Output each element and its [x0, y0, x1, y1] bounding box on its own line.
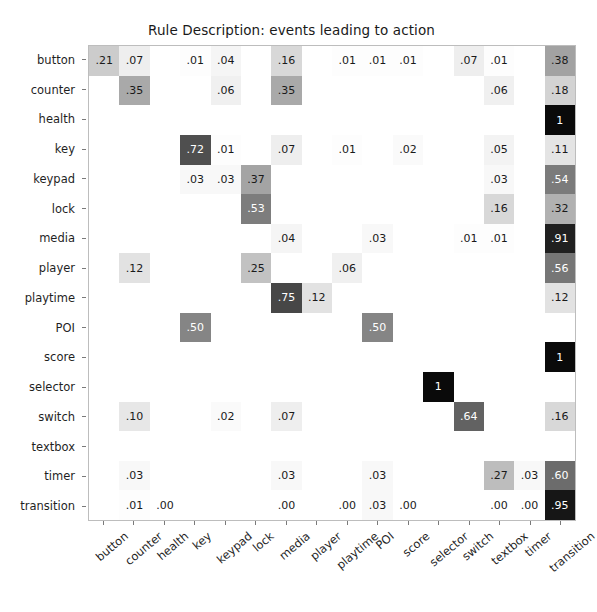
y-axis-label: playtime — [0, 283, 82, 313]
heatmap-cell: .16 — [271, 46, 301, 76]
x-axis-label-wrap: timer — [515, 527, 546, 607]
heatmap-cell: 1 — [545, 105, 575, 135]
y-axis-label: counter — [0, 75, 82, 105]
heatmap-cell: .06 — [211, 76, 241, 106]
heatmap-cell-value: .01 — [126, 500, 144, 511]
x-axis-label-wrap: lock — [241, 527, 272, 607]
heatmap-cell — [423, 165, 453, 195]
heatmap-cell — [514, 253, 544, 283]
heatmap-cell — [484, 431, 514, 461]
heatmap-cell-value: .50 — [187, 322, 205, 333]
heatmap-cell — [302, 135, 332, 165]
x-axis-tick — [88, 521, 119, 526]
x-axis-label-wrap: textbox — [485, 527, 516, 607]
heatmap-cell: .07 — [271, 402, 301, 432]
heatmap-cell-value: .12 — [551, 292, 569, 303]
heatmap-cell — [271, 372, 301, 402]
x-axis-tick — [119, 521, 150, 526]
heatmap-cell: .56 — [545, 253, 575, 283]
heatmap-cell — [514, 165, 544, 195]
heatmap-cell — [514, 402, 544, 432]
heatmap-cell-value: .00 — [521, 500, 539, 511]
heatmap-cell — [119, 372, 149, 402]
heatmap-cell — [362, 283, 392, 313]
heatmap-cell — [211, 105, 241, 135]
heatmap-cell — [180, 372, 210, 402]
heatmap-cell: .12 — [545, 283, 575, 313]
heatmap-cell: .35 — [271, 76, 301, 106]
heatmap-cell-value: .64 — [460, 411, 478, 422]
heatmap-cell-value: .07 — [460, 55, 478, 66]
heatmap-cell: .91 — [545, 224, 575, 254]
heatmap-cell — [180, 402, 210, 432]
heatmap-cell-value: .75 — [278, 292, 296, 303]
heatmap-cell: 1 — [423, 372, 453, 402]
heatmap-cell-value: .01 — [490, 55, 508, 66]
y-axis-label: transition — [0, 491, 82, 521]
x-axis-label: transition — [546, 529, 597, 575]
heatmap-cell-value: .03 — [369, 470, 387, 481]
heatmap-cell — [119, 135, 149, 165]
heatmap-cell — [332, 461, 362, 491]
heatmap-cell — [119, 165, 149, 195]
x-axis-tick — [393, 521, 424, 526]
heatmap-cell — [271, 342, 301, 372]
heatmap-cell — [332, 313, 362, 343]
heatmap-cell — [119, 105, 149, 135]
heatmap-cell — [89, 402, 119, 432]
heatmap-cell — [454, 194, 484, 224]
heatmap-plot-area: .21.07.01.04.16.01.01.01.07.01.38.35.06.… — [88, 45, 576, 521]
heatmap-cell — [271, 165, 301, 195]
heatmap-cell: 1 — [545, 342, 575, 372]
y-axis-label: timer — [0, 462, 82, 492]
heatmap-cell — [89, 372, 119, 402]
heatmap-cell — [89, 313, 119, 343]
heatmap-cell — [150, 372, 180, 402]
heatmap-cell — [302, 313, 332, 343]
x-axis-tick — [241, 521, 272, 526]
heatmap-cell — [241, 461, 271, 491]
heatmap-cell — [271, 253, 301, 283]
heatmap-cell: .01 — [454, 224, 484, 254]
x-axis-tick — [302, 521, 333, 526]
heatmap-cell — [514, 76, 544, 106]
heatmap-cell-value: .16 — [551, 411, 569, 422]
heatmap-cell — [302, 490, 332, 520]
heatmap-cell-value: .03 — [490, 174, 508, 185]
x-axis-label-wrap: playtime — [332, 527, 363, 607]
heatmap-cell: .72 — [180, 135, 210, 165]
heatmap-cell — [362, 372, 392, 402]
heatmap-cell: .05 — [484, 135, 514, 165]
heatmap-cell — [393, 76, 423, 106]
heatmap-cell — [302, 194, 332, 224]
heatmap-cell — [89, 105, 119, 135]
heatmap-cell — [423, 313, 453, 343]
heatmap-cell: .12 — [119, 253, 149, 283]
heatmap-cell-value: .12 — [308, 292, 326, 303]
heatmap-cell: .04 — [271, 224, 301, 254]
heatmap-cell — [514, 224, 544, 254]
heatmap-cell — [89, 165, 119, 195]
x-axis-labels: buttoncounterhealthkeykeypadlockmediapla… — [88, 527, 576, 607]
heatmap-cell: .06 — [332, 253, 362, 283]
heatmap-cell-value: 1 — [556, 115, 563, 126]
heatmap-cell — [241, 76, 271, 106]
heatmap-cell — [362, 402, 392, 432]
heatmap-cell-value: .03 — [369, 233, 387, 244]
heatmap-cell — [484, 105, 514, 135]
heatmap-cell-value: .06 — [490, 85, 508, 96]
y-axis-label: switch — [0, 402, 82, 432]
heatmap-cell — [454, 490, 484, 520]
heatmap-cell — [393, 372, 423, 402]
heatmap-cell: .54 — [545, 165, 575, 195]
y-axis-label: POI — [0, 313, 82, 343]
heatmap-cell-value: .06 — [338, 263, 356, 274]
heatmap-cell: .37 — [241, 165, 271, 195]
heatmap-cell — [393, 402, 423, 432]
x-axis-tick — [149, 521, 180, 526]
heatmap-cell: .01 — [180, 46, 210, 76]
x-axis-label-wrap: selector — [424, 527, 455, 607]
heatmap-cell — [423, 490, 453, 520]
heatmap-cell — [211, 194, 241, 224]
heatmap-cell — [302, 46, 332, 76]
